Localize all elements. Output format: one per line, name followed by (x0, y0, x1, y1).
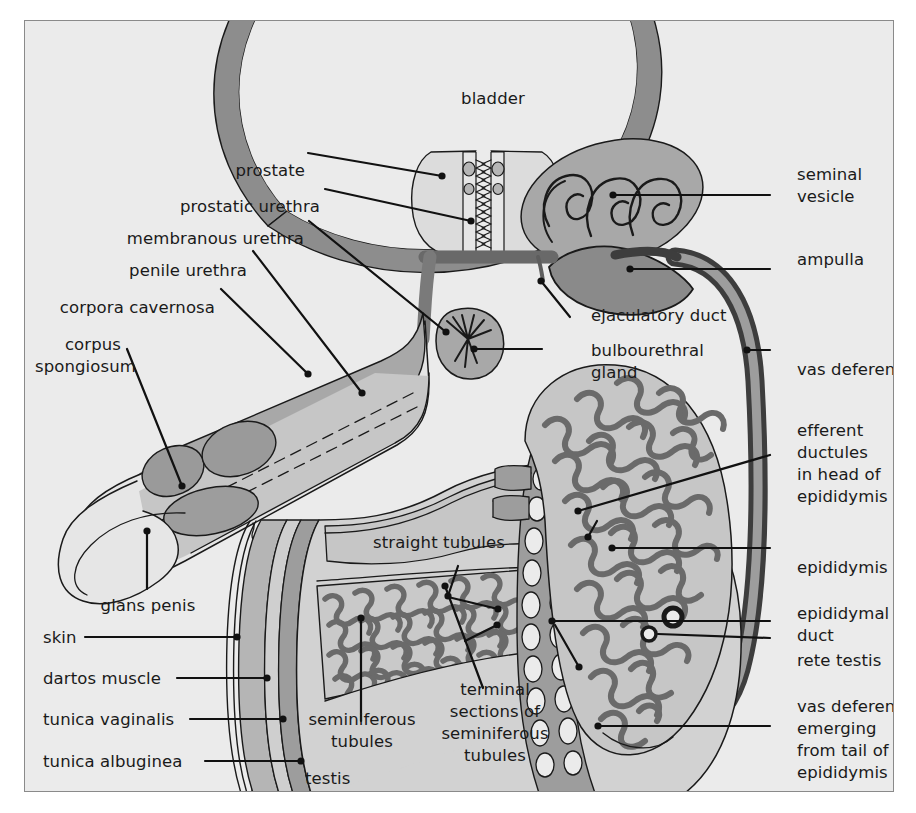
label-tunica-albuginea: tunica albuginea (43, 752, 243, 772)
label-skin: skin (43, 628, 123, 648)
diagram-frame: bladder prostate prostatic urethra membr… (24, 20, 894, 792)
label-straight-tubules: straight tubules (373, 533, 563, 553)
label-efferent-ductules-line4: epididymis (797, 487, 894, 507)
label-vas-deferens-tail-line1: vas deferens (797, 697, 894, 717)
label-ampulla: ampulla (797, 250, 894, 270)
label-terminal-sections-line1: terminal (415, 680, 575, 700)
label-epididymis: epididymis (797, 558, 894, 578)
label-rete-testis: rete testis (797, 651, 894, 671)
label-corpora-cavernosa: corpora cavernosa (35, 298, 215, 318)
label-bulbourethral-gland-line2: gland (591, 363, 781, 383)
label-vas-deferens: vas deferens (797, 360, 894, 380)
label-terminal-sections-line3: seminiferous (415, 724, 575, 744)
label-terminal-sections-line4: tubules (415, 746, 575, 766)
label-corpus-spongiosum-line2: spongiosum (35, 357, 121, 377)
label-vas-deferens-tail-line2: emerging (797, 719, 894, 739)
anatomical-diagram-figure: bladder prostate prostatic urethra membr… (0, 0, 916, 813)
label-penile-urethra: penile urethra (35, 261, 247, 281)
label-efferent-ductules-line2: ductules (797, 443, 894, 463)
bulbourethral-gland-organ (436, 308, 504, 379)
label-efferent-ductules-line3: in head of (797, 465, 894, 485)
label-vas-deferens-tail-line4: epididymis (797, 763, 894, 783)
label-epididymal-duct-line2: duct (797, 626, 894, 646)
label-tunica-vaginalis: tunica vaginalis (43, 710, 233, 730)
label-vas-deferens-tail-line3: from tail of (797, 741, 894, 761)
label-dartos-muscle: dartos muscle (43, 669, 223, 689)
label-membranous-urethra: membranous urethra (31, 229, 304, 249)
label-efferent-ductules-line1: efferent (797, 421, 894, 441)
label-prostate: prostate (85, 161, 305, 181)
label-bulbourethral-gland-line1: bulbourethral (591, 341, 781, 361)
label-glans-penis: glans penis (73, 596, 223, 616)
label-testis: testis (305, 769, 395, 789)
label-bladder: bladder (423, 89, 563, 109)
label-ejaculatory-duct: ejaculatory duct (591, 306, 791, 326)
label-epididymal-duct-line1: epididymal (797, 604, 894, 624)
label-prostatic-urethra: prostatic urethra (55, 197, 320, 217)
label-terminal-sections-line2: sections of (415, 702, 575, 722)
label-seminal-vesicle-line1: seminal (797, 165, 894, 185)
label-seminal-vesicle-line2: vesicle (797, 187, 894, 207)
label-corpus-spongiosum-line1: corpus (35, 335, 121, 355)
